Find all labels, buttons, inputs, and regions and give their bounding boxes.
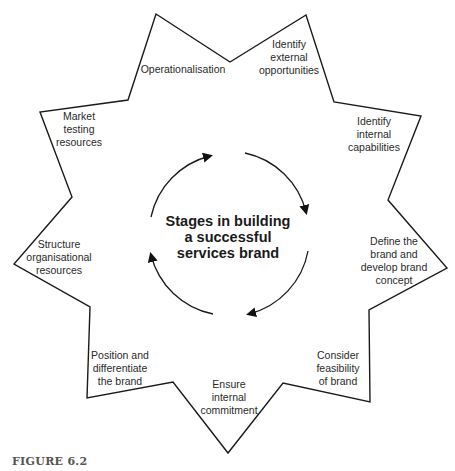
stage-label-line: of brand: [319, 375, 358, 387]
stage-label-line: organisational: [26, 251, 91, 263]
stage-label-line: differentiate: [93, 362, 148, 374]
stage-label-line: resources: [56, 136, 102, 148]
arrow-bottom-left: [151, 255, 213, 314]
stage-label-line: internal: [212, 391, 246, 403]
arrow-top-right: [245, 153, 306, 212]
stage-label-line: capabilities: [348, 141, 400, 153]
stage-structure-resources: Structure organisational resources: [26, 238, 91, 276]
stage-label-line: feasibility: [316, 362, 360, 374]
stage-consider-feasibility: Consider feasibility of brand: [316, 349, 360, 387]
center-title-line: Stages in building: [166, 213, 291, 229]
stage-market-testing: Market testing resources: [56, 110, 102, 148]
stage-label-line: external: [270, 51, 307, 63]
stage-label-line: Position and: [91, 349, 149, 361]
stage-label-line: Define the: [370, 235, 418, 247]
stage-label-line: testing: [64, 123, 95, 135]
stage-identify-internal-capabilities: Identify internal capabilities: [348, 115, 400, 153]
stage-label-line: Consider: [317, 349, 360, 361]
stage-label-line: Identify: [357, 115, 392, 127]
center-title-line: services brand: [177, 245, 279, 261]
stage-operationalisation: Operationalisation: [141, 63, 226, 75]
stage-label-line: Identify: [272, 38, 307, 50]
stage-label-line: Market: [63, 110, 95, 122]
stage-label-line: Structure: [38, 238, 81, 250]
stage-label-line: Ensure: [212, 378, 245, 390]
stage-define-brand: Define the brand and develop brand conce…: [361, 235, 428, 286]
stage-label-line: develop brand: [361, 261, 428, 273]
stage-ensure-internal-commitment: Ensure internal commitment: [200, 378, 257, 416]
figure-caption: FIGURE 6.2: [12, 455, 87, 468]
stage-label-line: brand and: [370, 248, 417, 260]
arrow-top-left: [151, 156, 210, 217]
stage-identify-external-opportunities: Identify external opportunities: [259, 38, 319, 76]
stage-label-line: commitment: [200, 404, 257, 416]
stage-label-line: concept: [376, 274, 413, 286]
stage-label-line: resources: [36, 264, 82, 276]
star-cycle-diagram: Stages in building a successful services…: [0, 0, 455, 471]
stage-position-differentiate: Position and differentiate the brand: [91, 349, 149, 387]
stage-label-line: the brand: [98, 375, 143, 387]
stage-label-line: opportunities: [259, 64, 319, 76]
center-title-line: a successful: [184, 229, 271, 245]
stage-label-line: internal: [357, 128, 391, 140]
stage-label-line: Operationalisation: [141, 63, 226, 75]
center-title: Stages in building a successful services…: [166, 213, 291, 261]
